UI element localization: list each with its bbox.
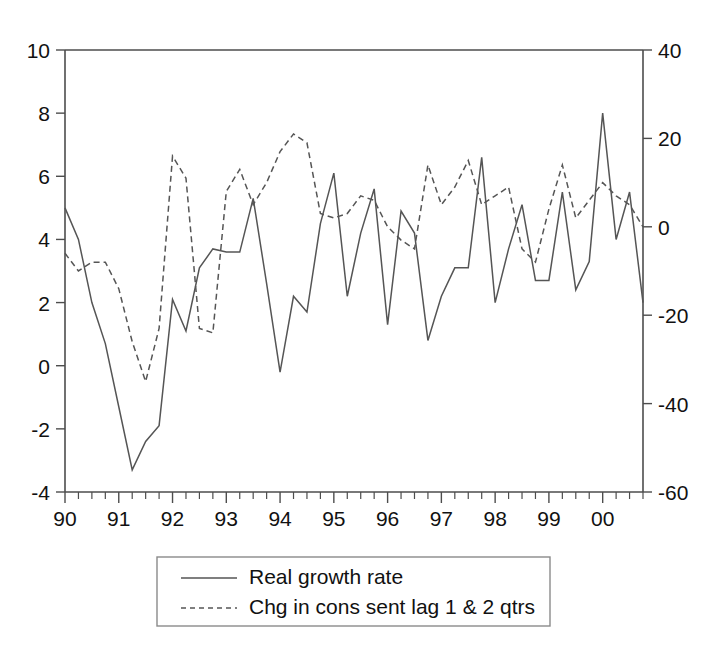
y-axis-left-tick-label: 6 [38, 165, 50, 188]
y-axis-left-tick-label: 0 [38, 355, 50, 378]
line-chart: 9091929394959697989900 -4-20246810 -60-4… [0, 0, 725, 652]
x-axis-tick-label: 96 [376, 507, 399, 530]
chart-figure: 9091929394959697989900 -4-20246810 -60-4… [0, 0, 725, 652]
y-axis-right-tick-label: 0 [658, 216, 670, 239]
chart-legend: Real growth rateChg in cons sent lag 1 &… [157, 557, 550, 626]
y-axis-left-ticks [56, 50, 65, 492]
x-axis-tick-label: 95 [322, 507, 345, 530]
y-axis-left-tick-label: 4 [38, 228, 50, 251]
y-axis-left-tick-label: 8 [38, 102, 50, 125]
plot-frame [65, 50, 643, 492]
y-axis-right-tick-label: -20 [658, 304, 688, 327]
series-layer [65, 113, 643, 470]
y-axis-left-tick-labels: -4-20246810 [27, 39, 51, 504]
x-axis-tick-label: 97 [430, 507, 453, 530]
series-line-1 [65, 113, 643, 470]
x-axis-ticks [65, 492, 643, 503]
x-axis-tick-label: 99 [537, 507, 560, 530]
y-axis-left-tick-label: -4 [31, 481, 50, 504]
series-line-2 [65, 134, 643, 382]
y-axis-left-tick-label: 10 [27, 39, 50, 62]
x-axis-tick-label: 93 [215, 507, 238, 530]
y-axis-left-tick-label: -2 [31, 418, 50, 441]
y-axis-right-tick-labels: -60-40-2002040 [658, 39, 688, 504]
x-axis-tick-labels: 9091929394959697989900 [53, 507, 614, 530]
legend-label-1: Real growth rate [249, 565, 403, 588]
y-axis-right-tick-label: 40 [658, 39, 681, 62]
x-axis-tick-label: 91 [107, 507, 130, 530]
x-axis-tick-label: 98 [483, 507, 506, 530]
y-axis-right-tick-label: 20 [658, 127, 681, 150]
x-axis-tick-label: 00 [591, 507, 614, 530]
y-axis-right-ticks [643, 50, 652, 492]
y-axis-right-tick-label: -40 [658, 393, 688, 416]
y-axis-left-tick-label: 2 [38, 292, 50, 315]
x-axis-tick-label: 92 [161, 507, 184, 530]
x-axis-tick-label: 94 [268, 507, 292, 530]
legend-label-2: Chg in cons sent lag 1 & 2 qtrs [249, 595, 535, 618]
y-axis-right-tick-label: -60 [658, 481, 688, 504]
x-axis-tick-label: 90 [53, 507, 76, 530]
